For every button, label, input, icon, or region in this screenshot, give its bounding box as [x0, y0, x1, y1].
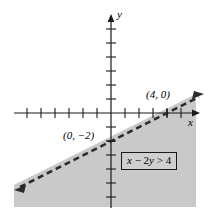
inequality-right-hand-side: 4	[166, 154, 172, 166]
inequality-minus-operator: −	[132, 154, 144, 166]
y-axis-label: y	[117, 8, 122, 20]
x-axis-label: x	[188, 116, 193, 128]
inequality-graph-figure: (4, 0) (0, −2) y x x − 2y > 4	[0, 0, 211, 216]
inequality-callout-box: x − 2y > 4	[121, 152, 177, 170]
point-label-y-intercept: (0, −2)	[63, 129, 94, 141]
coordinate-plane	[0, 0, 211, 216]
point-label-x-intercept: (4, 0)	[146, 88, 170, 100]
inequality-greater-than-operator: >	[154, 154, 166, 166]
